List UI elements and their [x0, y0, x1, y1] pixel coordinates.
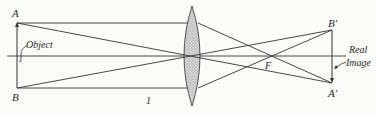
label-B-prime: B′ — [328, 17, 338, 29]
label-A-prime: A′ — [327, 87, 338, 99]
label-image: Image — [345, 57, 372, 68]
label-A: A — [11, 7, 19, 19]
ray-B-chief — [17, 30, 332, 88]
ray-A-refracted — [198, 23, 332, 83]
label-F: F — [264, 60, 272, 71]
label-object: Object — [26, 39, 53, 50]
ray-A-chief — [17, 23, 332, 83]
image-pointer-arrowhead-icon — [334, 65, 338, 69]
label-real: Real — [348, 44, 368, 55]
figure-number: 1 — [146, 95, 151, 106]
lens-diagram: A B Object F B′ A′ Real Image 1 — [0, 0, 376, 114]
label-B: B — [12, 91, 19, 103]
